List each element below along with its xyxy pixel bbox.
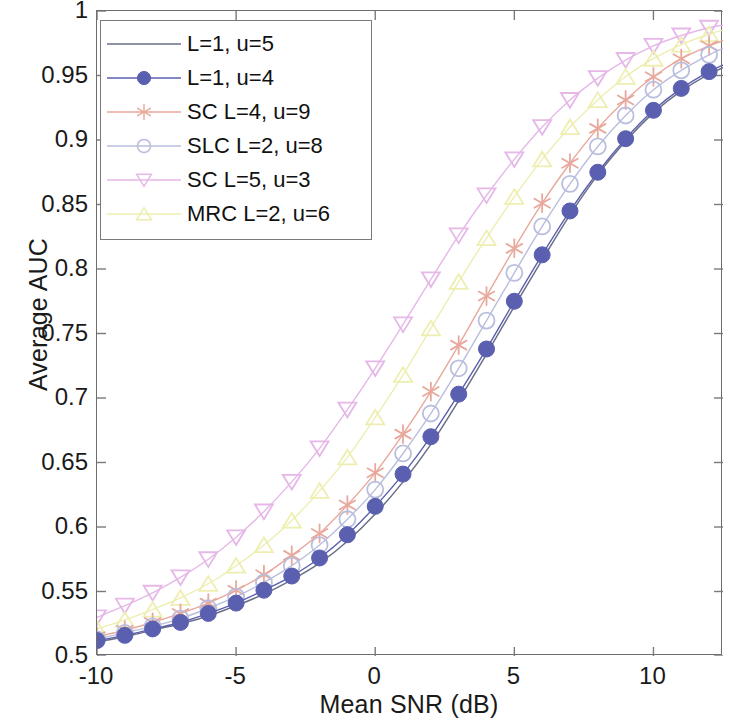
data-point-marker <box>423 383 439 401</box>
data-point-marker <box>256 582 272 598</box>
legend-sample-icon <box>101 129 187 163</box>
x-tick-label: 5 <box>478 662 548 690</box>
legend-swatch <box>101 197 187 231</box>
y-tick-label: 0.8 <box>4 256 88 280</box>
y-tick-label: 0.6 <box>4 514 88 538</box>
legend-swatch <box>101 163 187 197</box>
data-point-marker <box>534 247 550 263</box>
data-point-marker <box>618 131 634 147</box>
legend-label: MRC L=2, u=6 <box>187 201 330 227</box>
data-point-marker <box>451 386 467 402</box>
y-tick-label: 0.85 <box>4 192 88 216</box>
x-tick-label: -10 <box>61 662 131 690</box>
x-tick-label: 0 <box>339 662 409 690</box>
data-point-marker <box>562 203 578 219</box>
chart-figure: Average AUC Mean SNR (dB) 0.50.550.60.65… <box>0 0 730 726</box>
data-point-marker <box>284 568 300 584</box>
data-point-marker <box>145 621 161 637</box>
x-axis-label: Mean SNR (dB) <box>96 690 722 719</box>
legend-label: SC L=4, u=9 <box>187 99 311 125</box>
legend-swatch <box>101 27 187 61</box>
x-tick-label: -5 <box>200 662 270 690</box>
legend-swatch <box>101 129 187 163</box>
x-tick-label: 10 <box>617 662 687 690</box>
legend-item-1: L=1, u=4 <box>101 61 371 95</box>
data-point-marker <box>451 336 467 354</box>
data-point-marker <box>618 91 634 109</box>
legend-item-5: MRC L=2, u=6 <box>101 197 371 231</box>
data-point-marker <box>137 71 150 84</box>
data-point-marker <box>395 466 411 482</box>
y-axis-tick-labels: 0.50.550.60.650.70.750.80.850.90.951 <box>0 0 88 726</box>
legend-item-3: SLC L=2, u=8 <box>101 129 371 163</box>
legend-label: SLC L=2, u=8 <box>187 133 323 159</box>
data-point-marker <box>367 498 383 514</box>
legend-sample-icon <box>101 163 187 197</box>
data-point-marker <box>312 550 328 566</box>
data-point-marker <box>200 605 216 621</box>
legend-swatch <box>101 95 187 129</box>
legend-sample-icon <box>101 95 187 129</box>
data-point-marker <box>534 194 550 212</box>
y-tick-label: 0.7 <box>4 385 88 409</box>
legend-item-4: SC L=5, u=3 <box>101 163 371 197</box>
data-point-marker <box>395 425 411 443</box>
y-tick-label: 0.75 <box>4 321 88 345</box>
data-point-marker <box>673 80 689 96</box>
legend-label: SC L=5, u=3 <box>187 167 311 193</box>
data-point-marker <box>423 429 439 445</box>
chart-legend: L=1, u=5L=1, u=4SC L=4, u=9SLC L=2, u=8S… <box>100 20 372 240</box>
legend-label: L=1, u=4 <box>187 65 274 91</box>
legend-swatch <box>101 61 187 95</box>
data-point-marker <box>506 293 522 309</box>
y-tick-label: 0.65 <box>4 450 88 474</box>
legend-item-2: SC L=4, u=9 <box>101 95 371 129</box>
y-tick-label: 0.9 <box>4 127 88 151</box>
data-point-marker <box>507 239 523 257</box>
legend-item-0: L=1, u=5 <box>101 27 371 61</box>
y-tick-label: 0.95 <box>4 63 88 87</box>
data-point-marker <box>228 595 244 611</box>
y-tick-label: 1 <box>4 0 88 22</box>
data-point-marker <box>339 527 355 543</box>
legend-label: L=1, u=5 <box>187 31 274 57</box>
data-point-marker <box>590 164 606 180</box>
data-point-marker <box>117 627 133 643</box>
data-point-marker <box>479 287 495 305</box>
data-point-marker <box>645 102 661 118</box>
legend-sample-icon <box>101 61 187 95</box>
y-tick-label: 0.55 <box>4 579 88 603</box>
data-point-marker <box>701 64 717 80</box>
data-point-marker <box>172 614 188 630</box>
legend-sample-icon <box>101 197 187 231</box>
data-point-marker <box>479 341 495 357</box>
legend-sample-icon <box>101 27 187 61</box>
